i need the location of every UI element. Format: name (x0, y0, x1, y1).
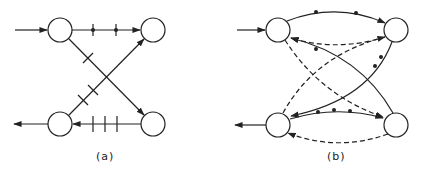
dot (314, 47, 318, 51)
dot (348, 109, 352, 113)
diagram-canvas (0, 0, 423, 175)
caption-b: (b) (327, 150, 346, 163)
node-b2 (384, 18, 408, 42)
node-b4 (384, 113, 408, 137)
edge-b4-b1 (291, 38, 393, 113)
dot (314, 10, 318, 14)
node-a1 (48, 18, 72, 42)
panel-a (14, 18, 165, 136)
edge-b1-b2 (287, 12, 385, 23)
dot (354, 11, 358, 15)
panel-b (235, 10, 408, 143)
node-b3 (266, 113, 290, 137)
node-a4 (141, 112, 165, 136)
node-a2 (141, 18, 165, 42)
caption-a: (a) (96, 150, 114, 163)
node-b1 (266, 18, 290, 42)
dot (373, 64, 377, 68)
dot (379, 55, 383, 59)
figure: (a) (b) (0, 0, 423, 175)
dot (332, 108, 336, 112)
dot (316, 110, 320, 114)
edge-b3-b2 (283, 37, 385, 113)
edge-b4-b3 (288, 133, 388, 143)
node-a3 (48, 112, 72, 136)
edge-b2-b3 (291, 42, 392, 116)
